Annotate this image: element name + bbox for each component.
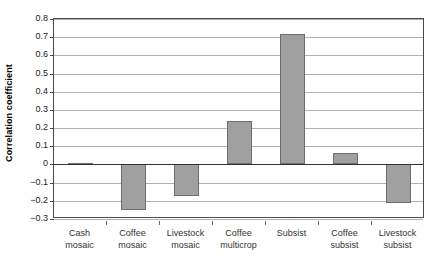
y-axis-tick-label: 0.4	[35, 86, 48, 96]
x-axis-category-label-line: mosaic	[65, 240, 94, 252]
y-axis-tick-mark	[50, 219, 54, 220]
y-axis-tick-label: 0.5	[35, 68, 48, 78]
x-axis-category-label-line: subsist	[330, 240, 358, 252]
bar	[280, 34, 304, 165]
bar	[333, 153, 357, 165]
x-axis-category-label-line: mosaic	[167, 240, 205, 252]
zero-baseline	[54, 164, 423, 165]
x-axis-category-label-line: Livestock	[379, 228, 417, 240]
x-axis-tick-mark	[318, 221, 319, 225]
y-axis-tick-label: 0.2	[35, 122, 48, 132]
x-axis-category-label: Livestockmosaic	[167, 228, 205, 251]
bars-layer	[54, 19, 423, 217]
bar	[174, 164, 198, 196]
x-axis-category-label-line: Cash	[65, 228, 94, 240]
x-axis-category-label-line: multicrop	[220, 240, 257, 252]
x-axis-category-label: Subsist	[277, 228, 307, 240]
x-axis-tick-mark	[371, 221, 372, 225]
y-axis-tick-label: 0.3	[35, 104, 48, 114]
y-axis-tick-label: −0.3	[30, 213, 48, 223]
bar	[386, 164, 410, 202]
plot-area	[53, 18, 424, 218]
correlation-coefficient-bar-chart: Correlation coefficient 0.80.70.60.50.40…	[0, 0, 439, 267]
x-axis-tick-mark	[265, 221, 266, 225]
y-axis-tick-label: −0.1	[30, 177, 48, 187]
x-axis-category-label: Livestocksubsist	[379, 228, 417, 251]
y-axis-tick-label: 0.7	[35, 31, 48, 41]
x-axis-category-label-line: Coffee	[220, 228, 257, 240]
x-axis-category-label-line: Subsist	[277, 228, 307, 240]
x-axis-category-label: Coffeemosaic	[118, 228, 147, 251]
bar	[227, 121, 251, 165]
y-axis-tick-label: 0.1	[35, 140, 48, 150]
y-axis-tick-label: 0	[43, 158, 48, 168]
y-axis-tick-label: −0.2	[30, 195, 48, 205]
x-axis-category-label-line: Coffee	[330, 228, 358, 240]
gridline	[54, 219, 423, 220]
x-axis-category-label-line: subsist	[379, 240, 417, 252]
x-axis-category-labels: CashmosaicCoffeemosaicLivestockmosaicCof…	[53, 221, 424, 267]
x-axis-category-label-line: mosaic	[118, 240, 147, 252]
x-axis-category-label: Cashmosaic	[65, 228, 94, 251]
x-axis-tick-mark	[159, 221, 160, 225]
bar	[121, 164, 145, 209]
y-axis-tick-label: 0.6	[35, 49, 48, 59]
y-axis-title: Correlation coefficient	[0, 0, 18, 225]
y-axis-title-text: Correlation coefficient	[4, 64, 14, 162]
x-axis-category-label: Coffeesubsist	[330, 228, 358, 251]
x-axis-tick-mark	[106, 221, 107, 225]
y-axis-tick-label: 0.8	[35, 13, 48, 23]
x-axis-category-label-line: Livestock	[167, 228, 205, 240]
x-axis-category-label: Coffeemulticrop	[220, 228, 257, 251]
x-axis-tick-mark	[212, 221, 213, 225]
y-axis-tick-labels: 0.80.70.60.50.40.30.20.10−0.1−0.2−0.3	[18, 0, 51, 225]
x-axis-category-label-line: Coffee	[118, 228, 147, 240]
